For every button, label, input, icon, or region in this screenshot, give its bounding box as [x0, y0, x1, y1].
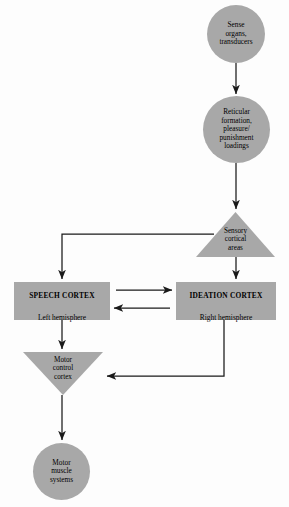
- node-speech-cortex-text: SPEECH CORTEX Left hemisphere: [29, 278, 94, 324]
- node-reticular-formation: Reticular formation, pleasure/ punishmen…: [203, 96, 270, 163]
- node-speech-cortex-subtitle: Left hemisphere: [38, 313, 86, 322]
- node-sense-organs: Sense organs, transducers: [207, 5, 265, 63]
- node-sense-organs-label: Sense organs, transducers: [219, 21, 252, 47]
- node-ideation-cortex-subtitle: Right hemisphere: [200, 313, 252, 322]
- node-speech-cortex-title: SPEECH CORTEX: [29, 291, 94, 300]
- node-sensory-cortical-areas-label: Sensory cortical areas: [224, 227, 247, 252]
- node-motor-control-cortex: Motor control cortex: [23, 352, 103, 395]
- edge-ideation-to-motorcortex: [107, 320, 224, 376]
- node-speech-cortex: SPEECH CORTEX Left hemisphere: [14, 282, 110, 320]
- node-reticular-formation-label: Reticular formation, pleasure/ punishmen…: [219, 108, 253, 151]
- flowchart-diagram: Sense organs, transducers Reticular form…: [0, 0, 289, 507]
- node-ideation-cortex: IDEATION CORTEX Right hemisphere: [176, 282, 276, 320]
- node-motor-muscle-systems: Motor muscle systems: [33, 443, 90, 500]
- node-motor-muscle-systems-label: Motor muscle systems: [50, 459, 73, 485]
- edge-sensory-to-speech: [62, 234, 214, 279]
- node-motor-control-cortex-label: Motor control cortex: [53, 356, 73, 381]
- node-ideation-cortex-text: IDEATION CORTEX Right hemisphere: [189, 278, 262, 324]
- node-ideation-cortex-title: IDEATION CORTEX: [189, 291, 262, 300]
- node-sensory-cortical-areas: Sensory cortical areas: [196, 212, 275, 257]
